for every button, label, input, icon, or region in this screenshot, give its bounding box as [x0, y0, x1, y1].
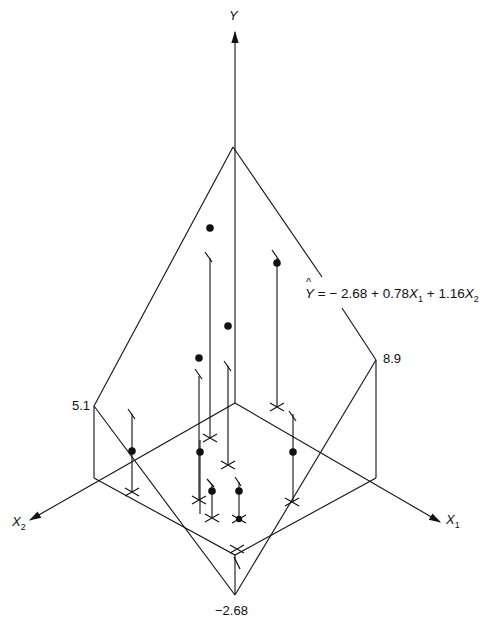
data-point — [236, 516, 242, 522]
observed-points — [128, 224, 297, 522]
regression-diagram — [0, 0, 482, 630]
x2-label-text: X — [12, 514, 21, 529]
x2-label-subscript: 2 — [21, 522, 26, 532]
x1-label-text: X — [446, 512, 455, 527]
data-point — [196, 448, 204, 456]
plane-edge-bottom-left — [94, 406, 235, 595]
hat-symbol: ^ — [306, 276, 311, 288]
data-point — [195, 354, 203, 362]
x1-axis — [235, 403, 440, 522]
y-label-text: Y — [229, 8, 238, 23]
residual-lines — [132, 100, 293, 519]
plane-projection-ticks — [128, 250, 296, 569]
regression-equation: ^Y = − 2.68 + 0.78X1 + 1.16X2 — [305, 286, 479, 304]
intercept-label: −2.68 — [215, 603, 248, 618]
equation-b2-term: + 1.16 — [423, 286, 465, 301]
data-point — [289, 448, 297, 456]
y-hat: ^Y — [305, 286, 314, 301]
equation-x2-sub: 2 — [474, 294, 479, 304]
equation-x2-var: X — [465, 286, 474, 301]
data-point — [235, 487, 243, 495]
x2-axis-label: X2 — [12, 514, 26, 532]
data-point — [273, 259, 281, 267]
corner-label-x1: 8.9 — [383, 351, 401, 366]
data-point — [224, 322, 232, 330]
data-point — [206, 224, 214, 232]
data-point — [208, 487, 216, 495]
equation-intercept-term: = − 2.68 + 0.78 — [314, 286, 409, 301]
corner-label-x2: 5.1 — [72, 398, 90, 413]
plane-edge-top-left — [94, 147, 233, 406]
plane-edge-bottom-right — [235, 360, 376, 595]
y-hat-letter: Y — [305, 286, 314, 301]
plane-edge-top-right-lower — [342, 308, 376, 360]
x1-label-subscript: 1 — [455, 520, 460, 530]
data-point — [128, 447, 136, 455]
y-axis-label: Y — [229, 8, 238, 23]
equation-x1-var: X — [409, 286, 418, 301]
x1-axis-label: X1 — [446, 512, 460, 530]
